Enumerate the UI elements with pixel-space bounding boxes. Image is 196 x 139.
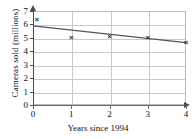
data-point-marker: ×	[184, 39, 189, 47]
y-axis-tick-label: 0	[0, 101, 28, 110]
x-axis-tick-label: 3	[141, 110, 155, 119]
x-axis-tick-label: 1	[64, 110, 78, 119]
x-axis-tick-label: 2	[103, 110, 117, 119]
y-axis-tick-label: 6	[0, 20, 28, 29]
y-axis-tick-label: 2	[0, 74, 28, 83]
x-axis-label: Years since 1994	[0, 123, 196, 133]
x-axis-tick-label: 4	[179, 110, 193, 119]
y-axis-tick-label: 7	[0, 7, 28, 16]
camera-sales-chart: Cameras sold (millions) ××××× Years sinc…	[0, 0, 196, 139]
data-point-marker: ×	[69, 34, 74, 42]
y-axis-tick-label: 5	[0, 34, 28, 43]
data-point-marker: ×	[107, 33, 112, 41]
x-axis-tick-label: 0	[26, 110, 40, 119]
data-point-marker: ×	[145, 34, 150, 42]
y-axis-tick-label: 4	[0, 47, 28, 56]
data-point-marker: ×	[34, 16, 39, 24]
y-axis-tick-label: 3	[0, 61, 28, 70]
y-axis-tick-label: 1	[0, 88, 28, 97]
